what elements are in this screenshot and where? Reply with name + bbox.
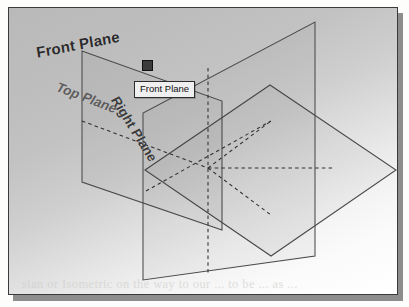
scanned-page: marriage control xyxy=(0,0,409,307)
selection-handle-square[interactable] xyxy=(142,60,153,71)
cad-application-window: Front Plane Top Plane Right Plane Front … xyxy=(8,7,398,295)
graphics-viewport[interactable]: Front Plane Top Plane Right Plane Front … xyxy=(9,8,397,294)
right-plane-face[interactable] xyxy=(143,22,315,280)
plane-tooltip: Front Plane xyxy=(134,81,195,98)
